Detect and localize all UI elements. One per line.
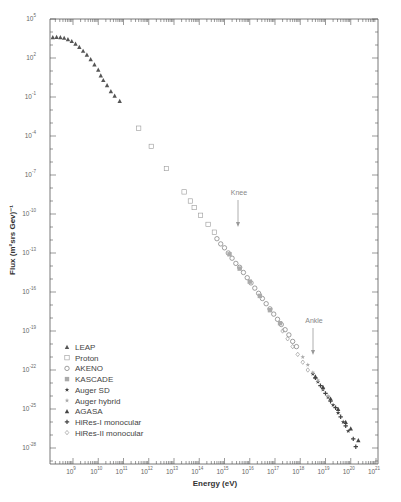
- filled-square-marker-icon: [237, 266, 241, 270]
- circle-marker-icon: [287, 333, 291, 337]
- triangle-marker-icon: [70, 39, 74, 43]
- triangle-marker-icon: [356, 438, 360, 442]
- star-marker-icon: [331, 403, 336, 407]
- x-tick-label: 1017: [267, 466, 280, 475]
- y-tick-label: 10-4: [25, 130, 37, 139]
- y-tick-label: 10-25: [22, 403, 36, 412]
- y-axis-title: Flux (m²srs Gev)⁻¹: [8, 205, 17, 275]
- filled-square-marker-icon: [65, 377, 69, 381]
- triangle-marker-icon: [96, 68, 100, 72]
- plus-marker-icon: [65, 420, 69, 424]
- cosmic-ray-flux-chart: 1091010101110121013101410151016101710181…: [0, 0, 401, 502]
- square-marker-icon: [206, 222, 210, 226]
- legend-label: Auger SD: [75, 386, 110, 395]
- square-marker-icon: [192, 205, 196, 209]
- ankle-label: Ankle: [305, 317, 323, 324]
- diamond-marker-icon: [296, 352, 300, 356]
- legend-item-hires-ii-monocular: HiRes-II monocular: [65, 429, 144, 438]
- triangle-marker-icon: [99, 73, 103, 77]
- circle-marker-icon: [234, 261, 238, 265]
- legend-item-leap: LEAP: [65, 343, 96, 352]
- legend-item-kascade: KASCADE: [65, 375, 113, 384]
- circle-marker-icon: [222, 246, 226, 250]
- triangle-marker-icon: [85, 53, 89, 57]
- square-marker-icon: [182, 190, 186, 194]
- triangle-marker-icon: [62, 36, 66, 40]
- diamond-marker-icon: [301, 360, 305, 364]
- legend-label: HiRes-I monocular: [75, 418, 142, 427]
- series-leap: [51, 35, 122, 103]
- square-marker-icon: [136, 126, 140, 130]
- legend-item-hires-i-monocular: HiRes-I monocular: [65, 418, 142, 427]
- star-marker-icon: [306, 362, 311, 366]
- circle-marker-icon: [294, 344, 298, 348]
- circle-marker-icon: [215, 237, 219, 241]
- triangle-marker-icon: [54, 35, 58, 39]
- x-axis-title: Energy (eV): [193, 479, 238, 488]
- circle-marker-icon: [275, 317, 279, 321]
- y-tick-label: 105: [26, 13, 36, 22]
- diamond-marker-icon: [65, 430, 69, 434]
- legend-label: AKENO: [75, 364, 103, 373]
- series-hires-i-monocular: [313, 376, 358, 449]
- x-tick-label: 1016: [242, 466, 255, 475]
- y-tick-label: 102: [26, 52, 36, 61]
- circle-marker-icon: [65, 366, 69, 370]
- x-tick-label: 1015: [216, 466, 229, 475]
- triangle-marker-icon: [112, 94, 116, 98]
- circle-marker-icon: [290, 339, 294, 343]
- plus-marker-icon: [323, 391, 327, 395]
- x-tick-label: 1014: [191, 466, 204, 475]
- annotations: Knee Ankle: [231, 189, 323, 355]
- square-marker-icon: [149, 144, 153, 148]
- x-tick-label: 1013: [166, 466, 179, 475]
- triangle-marker-icon: [88, 57, 92, 61]
- x-tick-label: 109: [66, 466, 76, 475]
- x-tick-label: 1021: [368, 466, 381, 475]
- diamond-marker-icon: [291, 344, 295, 348]
- filled-square-marker-icon: [248, 279, 252, 283]
- legend-item-agasa: AGASA: [65, 407, 103, 416]
- plus-marker-icon: [351, 437, 355, 441]
- triangle-marker-icon: [101, 78, 105, 82]
- triangle-marker-icon: [77, 45, 81, 49]
- x-tick-label: 1010: [90, 466, 103, 475]
- x-tick-label: 1011: [116, 466, 128, 475]
- triangle-marker-icon: [65, 409, 69, 413]
- circle-marker-icon: [245, 276, 249, 280]
- triangle-marker-icon: [81, 49, 85, 53]
- legend-label: Auger hybrid: [75, 397, 120, 406]
- legend-label: KASCADE: [75, 375, 113, 384]
- square-marker-icon: [198, 213, 202, 217]
- series-hires-ii-monocular: [281, 329, 310, 372]
- triangle-marker-icon: [92, 62, 96, 66]
- star-marker-icon: [336, 410, 341, 414]
- series-kascade: [227, 252, 282, 325]
- plus-marker-icon: [344, 424, 348, 428]
- legend-label: LEAP: [75, 343, 95, 352]
- x-tick-label: 1012: [141, 466, 154, 475]
- circle-marker-icon: [230, 256, 234, 260]
- triangle-marker-icon: [51, 35, 55, 39]
- triangle-marker-icon: [349, 426, 353, 430]
- ankle-arrowhead-icon: [311, 350, 315, 355]
- legend-item-akeno: AKENO: [65, 364, 103, 373]
- circle-marker-icon: [264, 302, 268, 306]
- diamond-marker-icon: [306, 368, 310, 372]
- square-marker-icon: [188, 199, 192, 203]
- star-marker-icon: [65, 387, 70, 391]
- y-tick-label: 10-19: [22, 325, 36, 334]
- square-marker-icon: [65, 356, 69, 360]
- plus-marker-icon: [354, 445, 358, 449]
- circle-marker-icon: [241, 270, 245, 274]
- star-marker-icon: [65, 398, 70, 402]
- filled-square-marker-icon: [227, 252, 231, 256]
- triangle-marker-icon: [58, 35, 62, 39]
- y-tick-label: 10-28: [22, 442, 36, 451]
- filled-square-marker-icon: [258, 294, 262, 298]
- triangle-marker-icon: [109, 89, 113, 93]
- legend-label: Proton: [75, 354, 99, 363]
- y-tick-label: 10-16: [22, 286, 36, 295]
- triangle-marker-icon: [73, 42, 77, 46]
- square-marker-icon: [164, 166, 168, 170]
